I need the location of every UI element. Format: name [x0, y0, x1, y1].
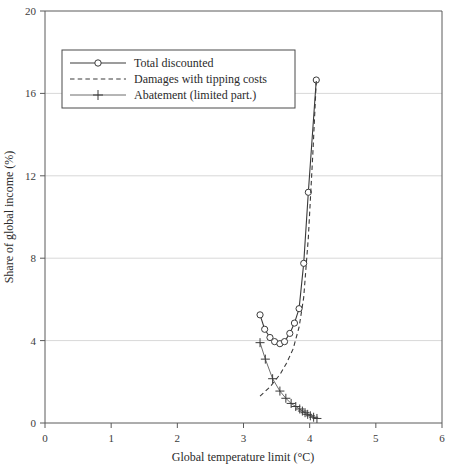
y-tick-label-16: 16 — [25, 87, 37, 99]
series-line — [260, 81, 316, 396]
data-point-marker — [296, 306, 302, 312]
chart-svg: 0123456 048121620 Total discounted Damag… — [0, 0, 457, 471]
legend-swatch-circle-marker — [95, 60, 101, 66]
y-axis-ticks: 048121620 — [25, 5, 45, 429]
data-point-marker — [281, 339, 287, 345]
legend-label-damages-tipping-costs: Damages with tipping costs — [134, 72, 267, 86]
legend-label-abatement: Abatement (limited part.) — [134, 88, 256, 102]
x-tick-label-3: 3 — [241, 432, 247, 444]
x-axis-title: Global temperature limit (°C) — [172, 450, 314, 464]
legend: Total discounted Damages with tipping co… — [62, 50, 295, 108]
series-line — [260, 80, 316, 344]
y-tick-label-20: 20 — [25, 5, 37, 17]
data-point-marker — [291, 320, 297, 326]
x-tick-label-5: 5 — [373, 432, 379, 444]
x-axis-ticks: 0123456 — [42, 423, 445, 444]
x-tick-label-0: 0 — [42, 432, 48, 444]
y-tick-label-12: 12 — [25, 170, 36, 182]
chart-figure: 0123456 048121620 Total discounted Damag… — [0, 0, 457, 471]
legend-item-abatement: Abatement (limited part.) — [70, 88, 256, 102]
y-tick-label-0: 0 — [31, 417, 37, 429]
data-point-marker — [287, 330, 293, 336]
data-point-marker — [295, 404, 304, 413]
y-tick-label-4: 4 — [31, 335, 37, 347]
y-tick-label-8: 8 — [31, 252, 37, 264]
x-tick-label-4: 4 — [307, 432, 313, 444]
y-axis-title: Share of global income (%) — [2, 151, 16, 284]
data-point-marker — [256, 338, 265, 347]
gridlines — [45, 93, 442, 340]
data-point-marker — [268, 374, 277, 383]
data-point-marker — [261, 355, 270, 364]
series-damages-with-tipping-costs — [260, 81, 316, 396]
x-tick-label-1: 1 — [108, 432, 114, 444]
data-point-marker — [257, 312, 263, 318]
data-point-marker — [262, 326, 268, 332]
series-abatement-limited-part — [256, 338, 322, 423]
x-tick-label-2: 2 — [175, 432, 181, 444]
legend-label-total-discounted: Total discounted — [134, 56, 213, 70]
x-tick-label-6: 6 — [439, 432, 445, 444]
series-line — [260, 343, 317, 419]
data-series-layer — [256, 77, 322, 423]
